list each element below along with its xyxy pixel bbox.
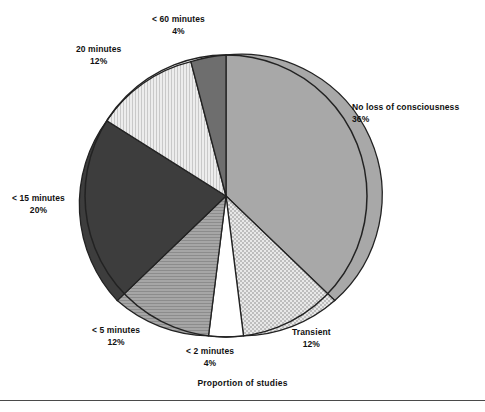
pie-label-name: < 15 minutes: [12, 192, 65, 204]
pie-label-percent: 36%: [352, 113, 459, 125]
pie-label-percent: 12%: [292, 338, 331, 350]
pie-label-percent: 12%: [92, 336, 140, 348]
pie-label-less-than-5-minutes: < 5 minutes 12%: [92, 324, 140, 349]
pie-chart-figure: No loss of consciousness 36% Transient 1…: [0, 0, 485, 412]
pie-label-name: Transient: [292, 326, 331, 338]
pie-label-percent: 20%: [12, 204, 65, 216]
pie-label-percent: 4%: [152, 25, 205, 37]
pie-label-less-than-60-minutes: < 60 minutes 4%: [152, 13, 205, 38]
pie-label-less-than-2-minutes: < 2 minutes 4%: [186, 345, 234, 370]
pie-label-name: < 2 minutes: [186, 345, 234, 357]
pie-label-name: < 5 minutes: [92, 324, 140, 336]
bottom-divider: [0, 400, 485, 401]
pie-label-percent: 4%: [186, 357, 234, 369]
pie-label-name: < 60 minutes: [152, 13, 205, 25]
pie-label-less-than-15-minutes: < 15 minutes 20%: [12, 192, 65, 217]
pie-label-name: 20 minutes: [76, 43, 121, 55]
pie-chart-graphic: [0, 0, 485, 412]
axis-title: Proportion of studies: [0, 378, 485, 388]
pie-label-transient: Transient 12%: [292, 326, 331, 351]
pie-label-name: No loss of consciousness: [352, 101, 459, 113]
pie-label-20-minutes: 20 minutes 12%: [76, 43, 121, 68]
pie-label-percent: 12%: [76, 55, 121, 67]
pie-label-no-loss-of-consciousness: No loss of consciousness 36%: [352, 101, 459, 126]
